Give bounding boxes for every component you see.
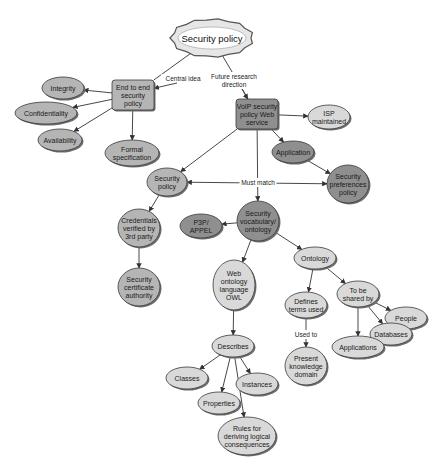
edge-shared-databases bbox=[368, 306, 383, 324]
node-integrity[interactable]: Integrity bbox=[42, 77, 86, 101]
edge-line bbox=[132, 110, 133, 140]
node-label: Defines bbox=[294, 298, 318, 305]
edge-ontology-defines bbox=[308, 269, 312, 292]
node-label: Instances bbox=[242, 381, 272, 388]
node-defines[interactable]: Definesterms used bbox=[285, 292, 329, 320]
edge-line bbox=[73, 99, 112, 107]
node-label: Rules for bbox=[233, 425, 262, 432]
node-label: Security bbox=[126, 276, 152, 284]
node-vocab[interactable]: Securityvocabulary/ontology bbox=[237, 201, 281, 243]
edge-line bbox=[222, 357, 231, 392]
edge-vocab-owl bbox=[243, 240, 251, 262]
node-label: verified by bbox=[123, 225, 155, 233]
edge-secpolicy-secpref: Must match bbox=[187, 178, 327, 187]
node-label: authority bbox=[126, 292, 153, 300]
node-label: End to end bbox=[116, 84, 150, 91]
edge-shared-people bbox=[374, 302, 390, 310]
edge-e2e-integrity bbox=[84, 90, 112, 93]
node-label: Application bbox=[276, 149, 310, 157]
node-secpref[interactable]: Securitypreferencespolicy bbox=[327, 165, 371, 205]
edge-line bbox=[257, 129, 258, 201]
edge-line bbox=[271, 129, 283, 142]
edge-line bbox=[74, 108, 112, 132]
node-root[interactable]: Security policy bbox=[170, 19, 253, 57]
node-availability[interactable]: Availability bbox=[38, 129, 84, 153]
edge-line bbox=[240, 356, 251, 373]
edge-root-voip: Future researchdirection bbox=[207, 53, 261, 99]
node-label: policy bbox=[124, 100, 142, 108]
edge-secpolicy-credentials bbox=[149, 195, 159, 211]
edge-line bbox=[243, 240, 251, 262]
node-label: specification bbox=[113, 154, 152, 162]
edge-voip-isp bbox=[278, 115, 308, 116]
node-applications[interactable]: Applications bbox=[332, 336, 386, 360]
node-label: terms used bbox=[289, 306, 324, 313]
node-label: domain bbox=[295, 371, 318, 378]
node-label: policy Web bbox=[240, 111, 274, 119]
node-label: Security policy bbox=[181, 33, 242, 44]
edge-line bbox=[149, 195, 159, 211]
node-label: preferences bbox=[330, 181, 367, 189]
edge-voip-secpolicy bbox=[181, 129, 238, 172]
node-e2e[interactable]: End to endsecuritypolicy bbox=[112, 80, 156, 112]
node-describes[interactable]: Describes bbox=[212, 335, 256, 359]
node-label: Classes bbox=[175, 375, 200, 382]
node-secpolicy[interactable]: Securitypolicy bbox=[147, 168, 189, 198]
node-ontology[interactable]: Ontology bbox=[294, 247, 338, 271]
node-p3p[interactable]: P3P/APPEL bbox=[180, 214, 224, 240]
node-label: vocabulary/ bbox=[240, 218, 276, 226]
node-label: ISP bbox=[323, 110, 335, 117]
node-properties[interactable]: Properties bbox=[198, 392, 242, 416]
node-label: Integrity bbox=[51, 85, 76, 93]
node-shared[interactable]: To beshared by bbox=[337, 281, 381, 309]
node-rules[interactable]: Rules forderiving logicalconsequences bbox=[218, 417, 278, 457]
node-present[interactable]: Presentknowledgedomain bbox=[285, 347, 329, 387]
edge-line bbox=[326, 267, 345, 283]
node-label: service bbox=[246, 119, 268, 126]
node-label: Applications bbox=[339, 344, 377, 352]
node-label: language bbox=[220, 286, 249, 294]
edge-line bbox=[374, 302, 390, 310]
edge-line bbox=[275, 232, 301, 249]
node-label: OWL bbox=[226, 294, 242, 301]
node-classes[interactable]: Classes bbox=[166, 367, 210, 391]
edge-describes-instances bbox=[240, 356, 251, 373]
edge-e2e-confidentiality bbox=[73, 99, 112, 107]
node-label: Ontology bbox=[301, 255, 330, 263]
edge-application-secpref bbox=[307, 160, 330, 174]
node-label: maintained bbox=[312, 118, 346, 125]
edge-line bbox=[181, 129, 238, 172]
edge-line bbox=[200, 355, 221, 369]
edge-vocab-p3p bbox=[222, 223, 237, 224]
node-label: 3rd party bbox=[125, 233, 153, 241]
edge-label: Must match bbox=[241, 179, 275, 186]
edge-e2e-formal bbox=[132, 110, 133, 140]
node-label: APPEL bbox=[190, 227, 213, 234]
edge-defines-present: Used to bbox=[292, 318, 319, 347]
edge-line bbox=[307, 160, 330, 174]
node-label: Describes bbox=[217, 343, 249, 350]
node-label: VoIP security bbox=[237, 103, 278, 111]
edge-label: Central idea bbox=[165, 75, 200, 82]
node-formal[interactable]: Formalspecification bbox=[105, 140, 161, 168]
node-label: Properties bbox=[203, 400, 235, 408]
node-isp[interactable]: ISPmaintained bbox=[308, 105, 352, 131]
node-credentials[interactable]: Credentialsverified by3rd party bbox=[118, 209, 162, 249]
node-certauth[interactable]: Securitycertificateauthority bbox=[118, 268, 162, 308]
edge-describes-classes bbox=[200, 355, 221, 369]
node-instances[interactable]: Instances bbox=[236, 373, 280, 397]
node-label: Credentials bbox=[121, 217, 157, 224]
edge-arrow-future-research bbox=[242, 89, 248, 99]
edge-ontology-shared bbox=[326, 267, 345, 283]
edge-line bbox=[84, 90, 112, 93]
node-owl[interactable]: WebontologylanguageOWL bbox=[213, 260, 257, 312]
node-label: ontology bbox=[245, 226, 272, 234]
node-application[interactable]: Application bbox=[272, 141, 316, 165]
edge-e2e-availability bbox=[74, 108, 112, 132]
node-label: security bbox=[121, 92, 146, 100]
node-label: Formal bbox=[121, 146, 143, 153]
node-confidentiality[interactable]: Confidentiality bbox=[15, 102, 79, 126]
edge-root-e2e: Central idea bbox=[154, 53, 205, 83]
node-label: Web bbox=[227, 270, 241, 277]
node-voip[interactable]: VoIP securitypolicy Webservice bbox=[236, 99, 280, 131]
